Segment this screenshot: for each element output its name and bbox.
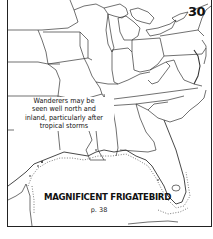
- range-note: Wanderers may be seen well north and inl…: [14, 97, 114, 131]
- map-number: 30: [188, 4, 205, 19]
- species-name: MAGNIFICENT FRIGATEBIRD: [44, 192, 154, 202]
- page-reference: p. 38: [44, 206, 154, 214]
- note-line: tropical storms: [14, 122, 114, 130]
- range-map-figure: 30 Wanderers may be seen well north and …: [7, 0, 212, 227]
